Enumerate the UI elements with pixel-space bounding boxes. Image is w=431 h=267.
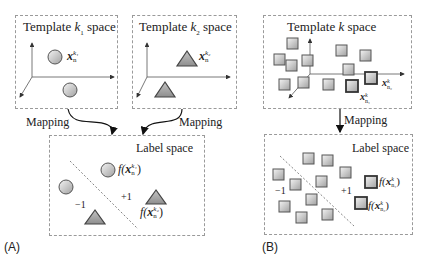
axes-k2 (137, 43, 230, 97)
template-k-title: Template k space (287, 20, 376, 33)
point-label-k2: xk₂n (199, 50, 211, 64)
triangle-point (146, 190, 166, 204)
mapping-label-b: Mapping (344, 114, 387, 126)
f-label-k1: f(xk₁n) (118, 163, 141, 177)
triangle-point (177, 51, 197, 66)
mapping-arrow-right (143, 109, 182, 134)
label-space-a-title: Label space (136, 142, 193, 154)
f-label-n1: f(xkn₁) (379, 176, 400, 188)
panel-a-label: (A) (4, 240, 20, 254)
template-k1-title: Template k1 space (23, 20, 116, 37)
neg-label-a: −1 (75, 200, 86, 210)
panel-b-label: (B) (262, 240, 278, 254)
circle-point (48, 50, 62, 64)
triangle-point (155, 82, 175, 97)
circle-point (59, 180, 73, 194)
point-label-n2: xkn₂ (382, 78, 392, 90)
diagram-graphics (0, 0, 431, 267)
mapping-label-left: Mapping (26, 116, 69, 128)
pos-label-a: +1 (121, 192, 132, 202)
neg-label-b: −1 (275, 186, 286, 196)
point-label-n1: xkn₁ (360, 92, 370, 104)
circle-point (101, 163, 115, 177)
mapping-arrow-left (68, 109, 112, 134)
circle-point (63, 83, 77, 97)
f-label-k2: f(xk₂n) (140, 206, 163, 220)
triangle-point (85, 210, 105, 224)
point-label-k1: xk₁n (67, 50, 79, 64)
pos-label-b: +1 (341, 186, 352, 196)
label-space-b-title: Label space (352, 142, 409, 154)
template-k2-title: Template k2 space (139, 20, 232, 37)
mapping-label-right: Mapping (179, 116, 222, 128)
f-label-n2: f(xkn₂) (368, 200, 389, 212)
